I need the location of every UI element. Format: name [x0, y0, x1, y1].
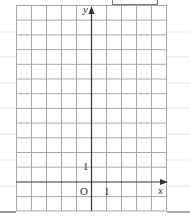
origin-label: O [80, 186, 88, 197]
y-axis-label: y [83, 4, 88, 15]
x-axis-label: x [158, 185, 163, 196]
coordinate-plane-figure: y x O 1 1 [0, 0, 190, 223]
y-unit-label: 1 [83, 161, 89, 172]
y-axis-arrow-icon [89, 6, 95, 14]
answer-box [113, 0, 158, 5]
notebook-lines [0, 32, 190, 186]
x-unit-label: 1 [104, 186, 110, 197]
